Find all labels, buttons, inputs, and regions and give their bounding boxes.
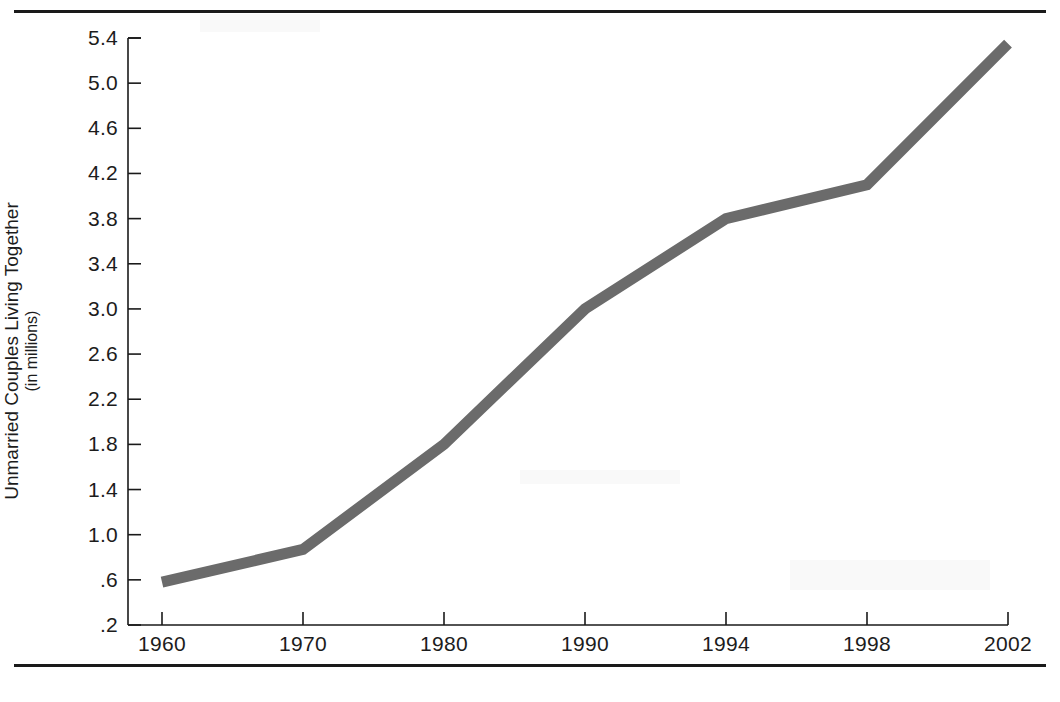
chart-canvas [0,0,1060,702]
data-series-group [162,44,1008,582]
figure-container: Unmarried Couples Living Together (in mi… [0,0,1060,702]
data-line-unmarried-couples [162,44,1008,582]
